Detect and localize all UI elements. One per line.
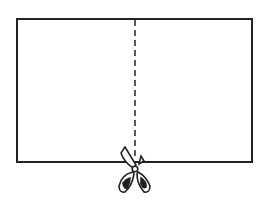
diagram-canvas xyxy=(0,0,276,205)
